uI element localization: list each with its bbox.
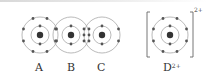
label-d-letter: D	[163, 61, 172, 74]
atom-d-ion	[152, 17, 188, 53]
label-c: C	[97, 62, 105, 74]
label-d-charge: 2+	[172, 62, 181, 69]
atom-a	[22, 17, 58, 53]
right-bracket	[190, 12, 193, 57]
nucleus	[37, 32, 43, 38]
bracket-charge: 2+	[194, 6, 203, 13]
label-a: A	[35, 62, 43, 74]
label-d: D2+	[163, 62, 181, 74]
shared-electrons-bc	[83, 28, 91, 43]
left-bracket	[147, 12, 150, 57]
label-b: B	[67, 62, 75, 74]
